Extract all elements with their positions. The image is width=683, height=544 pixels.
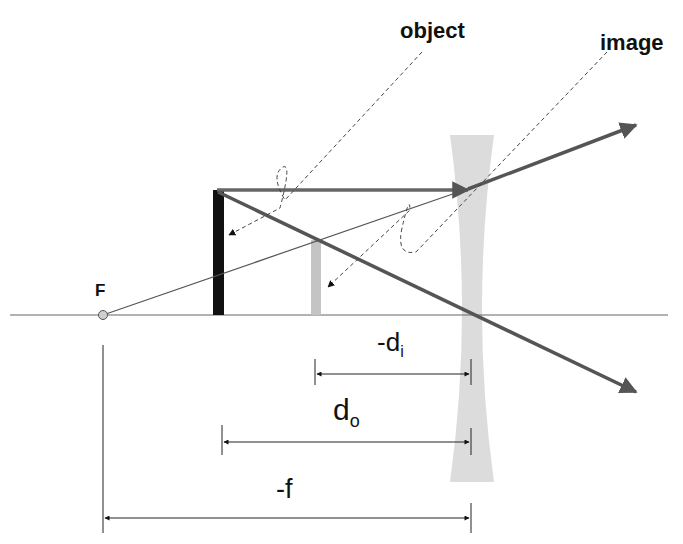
ray-diagram [0,0,683,544]
image-label: image [600,30,664,56]
di-label: -di [377,327,404,361]
di-label-main: -d [377,327,400,357]
virtual-ray-extension [103,188,470,315]
image-arrow [311,240,321,315]
refracted-ray [468,125,636,189]
f-label: -f [276,474,293,505]
object-callout-line [229,52,422,235]
object-label: object [400,18,465,44]
object-arrow [213,190,224,315]
focal-point [99,311,108,320]
do-label-sub: o [350,411,360,431]
di-label-sub: i [400,343,404,360]
central-ray [218,192,636,392]
do-label: do [333,393,360,432]
do-label-main: d [333,393,350,426]
focal-point-label: F [95,281,105,301]
